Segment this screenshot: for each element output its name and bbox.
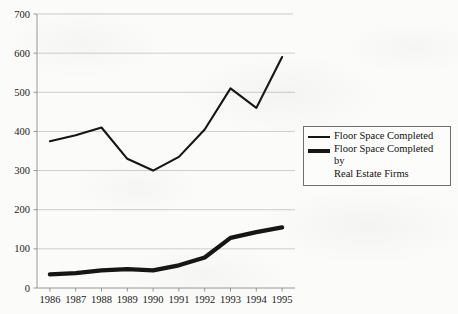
x-tick-label-1992: 1992	[194, 294, 215, 305]
x-tick-label-1993: 1993	[220, 294, 241, 305]
x-tick-label-1986: 1986	[39, 294, 60, 305]
x-tick-label-1994: 1994	[246, 294, 268, 305]
chart-legend: Floor Space Completed Floor Space Comple…	[303, 126, 451, 186]
legend-label-series-1: Floor Space Completed	[334, 130, 437, 143]
x-axis-tick-labels: 1986198719881989199019911992199319941995	[39, 294, 292, 305]
y-tick-label-500: 500	[14, 87, 30, 98]
x-tick-label-1990: 1990	[143, 294, 164, 305]
y-tick-label-100: 100	[14, 243, 30, 254]
y-tick-label-300: 300	[14, 165, 30, 176]
series-line-2	[50, 227, 282, 274]
legend-label-series-1-line-1: Floor Space Completed	[334, 130, 433, 143]
thin-line-swatch-cell	[304, 130, 334, 138]
y-tick-label-0: 0	[25, 283, 30, 294]
x-tick-label-1995: 1995	[272, 294, 293, 305]
legend-entry-real-estate-firms: Floor Space Completed by Real Estate Fir…	[304, 143, 450, 181]
gridlines-group	[37, 14, 295, 249]
y-tick-label-200: 200	[14, 204, 30, 215]
data-series-group	[50, 57, 282, 274]
thick-line-swatch-cell	[304, 143, 334, 153]
x-tick-label-1989: 1989	[117, 294, 138, 305]
legend-label-series-2: Floor Space Completed by Real Estate Fir…	[334, 143, 450, 181]
series-line-1	[50, 57, 282, 171]
legend-label-series-2-line-2: Real Estate Firms	[334, 168, 446, 181]
axes-group	[34, 14, 296, 292]
legend-entry-floor-space-completed: Floor Space Completed	[304, 130, 450, 143]
y-axis-tick-labels: 0100200300400500600700	[14, 9, 30, 294]
y-tick-label-600: 600	[14, 48, 30, 59]
x-tick-label-1987: 1987	[65, 294, 86, 305]
thick-line-swatch	[308, 149, 330, 153]
y-tick-label-400: 400	[14, 126, 30, 137]
x-tick-label-1988: 1988	[91, 294, 112, 305]
legend-label-series-2-line-1: Floor Space Completed by	[334, 143, 446, 168]
y-tick-label-700: 700	[14, 9, 30, 20]
x-tick-label-1991: 1991	[168, 294, 189, 305]
thin-line-swatch	[308, 136, 330, 138]
chart-figure: 0100200300400500600700 19861987198819891…	[0, 0, 458, 314]
